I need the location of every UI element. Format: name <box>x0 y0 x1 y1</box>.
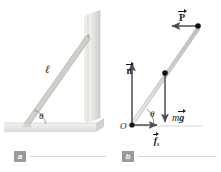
label-weight-gravity-text: g <box>179 112 184 123</box>
angle-theta-label-b: θ <box>150 110 154 119</box>
label-normal-force-n: n <box>127 65 135 76</box>
ladder-a <box>22 34 90 128</box>
label-normal-force-n-text: n <box>127 65 133 76</box>
panel-a-rule <box>30 156 106 157</box>
ladder-top-dot <box>195 23 201 29</box>
label-weight-force-mg: mg <box>172 113 184 123</box>
panel-b-letter: b <box>122 151 134 162</box>
panel-a-ladder-setup: ℓ θ a <box>0 0 110 172</box>
ladder-length-label: ℓ <box>45 64 50 75</box>
label-friction-subscript: s <box>157 141 159 147</box>
label-origin-O: O <box>120 122 127 131</box>
center-of-mass-dot <box>162 70 168 76</box>
panel-b-free-body-diagram: P n mg fs O θ b <box>110 0 221 172</box>
label-applied-force-P: P <box>179 12 188 23</box>
angle-theta-label-a: θ <box>39 112 43 121</box>
panel-b-rule <box>138 156 216 157</box>
panel-b-caption: b <box>122 151 216 165</box>
label-friction-force-fs: fs <box>154 135 160 146</box>
panel-a-drawing <box>0 0 110 145</box>
panel-a-letter: a <box>14 151 26 162</box>
wall-a <box>84 10 100 123</box>
label-friction-force-f-text: f <box>154 135 157 146</box>
physics-figure: ℓ θ a <box>0 0 221 172</box>
label-applied-force-P-text: P <box>179 12 185 23</box>
panel-a-caption: a <box>14 151 106 165</box>
origin-dot <box>129 122 134 127</box>
